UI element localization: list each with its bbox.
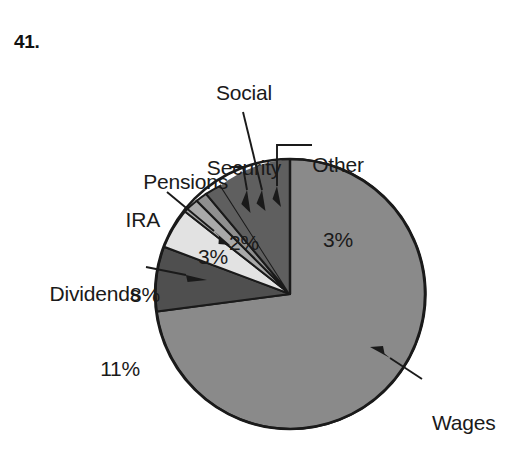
callout-other: Other 3% bbox=[296, 102, 380, 302]
callout-wages-line1: Wages bbox=[432, 410, 516, 435]
callout-dividends-line2: 11% bbox=[14, 356, 140, 381]
callout-other-line1: Other bbox=[296, 152, 380, 177]
callout-wages: Wages 73% bbox=[432, 360, 516, 449]
callout-social-security-line1: Social bbox=[188, 80, 300, 105]
callout-dividends-line1: Dividends bbox=[14, 281, 140, 306]
question-number: 41. bbox=[14, 31, 40, 53]
callout-ira-line1: IRA bbox=[70, 207, 160, 232]
callout-other-line2: 3% bbox=[296, 227, 380, 252]
pie-chart-figure: 41. bbox=[0, 0, 523, 449]
callout-dividends: Dividends 11% bbox=[14, 231, 140, 431]
